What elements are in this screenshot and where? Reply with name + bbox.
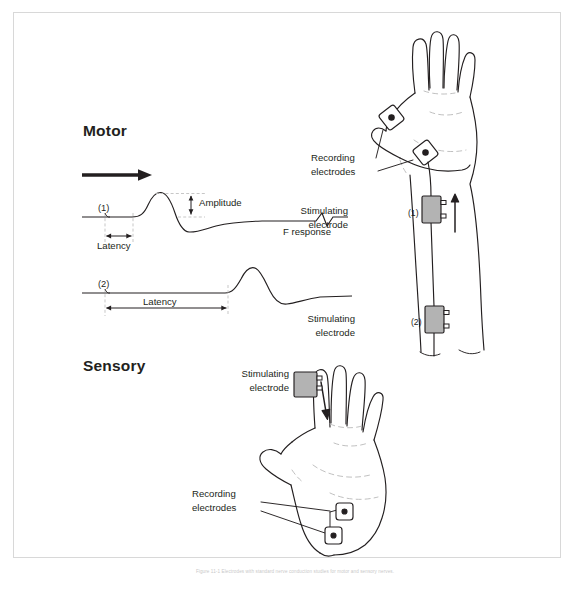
motor-direction-arrow (82, 169, 152, 181)
motor-stim1-label-line1: Stimulating (280, 205, 348, 216)
motor-stim2-label-line1: Stimulating (287, 313, 355, 324)
motor-stim1-label-line2: electrode (280, 219, 348, 230)
sensory-recording-electrode-1 (336, 503, 353, 520)
sensory-stim-label-line2: electrode (223, 382, 289, 393)
amplitude-guide-lines (155, 194, 205, 218)
trace-2-id: (2) (98, 279, 109, 289)
motor-recording-electrodes-label-line1: Recording (311, 152, 355, 163)
recording-electrode-1 (378, 104, 405, 131)
waveform-trace-2 (82, 268, 352, 304)
sensory-hand-illustration (260, 366, 386, 556)
motor-section-heading: Motor (83, 122, 127, 140)
diagram-canvas (0, 0, 578, 590)
motor-stim2-label-line2: electrode (287, 327, 355, 338)
stimulating-electrode-2 (425, 306, 449, 333)
sensory-recording-label-line1: Recording (192, 488, 236, 499)
motor-conduction-arrow (451, 194, 458, 232)
sensory-recording-electrode-2 (325, 527, 342, 544)
figure-root: Motor Sensory (1) Latency Amplitude F re… (0, 0, 578, 590)
sensory-stimulating-electrode (294, 372, 322, 397)
motor-recording-electrodes-label-line2: electrodes (311, 166, 355, 177)
motor-stim2-id: (2) (411, 317, 422, 327)
sensory-section-heading: Sensory (83, 357, 146, 375)
sensory-stim-label-line1: Stimulating (223, 368, 289, 379)
sensory-recording-label-line2: electrodes (192, 502, 236, 513)
trace-1-id: (1) (98, 203, 109, 213)
trace-2-latency-label: Latency (143, 296, 177, 307)
amplitude-label: Amplitude (199, 197, 242, 208)
stimulating-electrode-1 (422, 196, 446, 223)
figure-caption: Figure 11-1 Electrodes with standard ner… (95, 569, 495, 575)
recording-electrode-2 (412, 139, 439, 166)
motor-stim1-id: (1) (408, 208, 419, 218)
trace-1-latency-label: Latency (97, 240, 131, 251)
